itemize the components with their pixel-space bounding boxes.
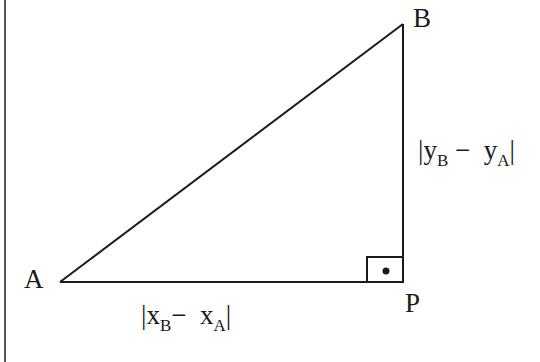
horizontal-distance-label: |xB− xA| — [141, 302, 231, 334]
right-triangle-diagram: A B P |xB− xA| |yB − yA| — [0, 0, 540, 362]
hypotenuse-AB — [60, 24, 403, 282]
vertical-distance-label: |yB − yA| — [418, 137, 515, 169]
vertex-label-B: B — [413, 5, 431, 32]
vertex-label-P: P — [405, 290, 420, 317]
right-angle-dot-icon — [383, 268, 390, 275]
diagram-canvas — [0, 0, 540, 362]
vertex-label-A: A — [24, 266, 44, 293]
